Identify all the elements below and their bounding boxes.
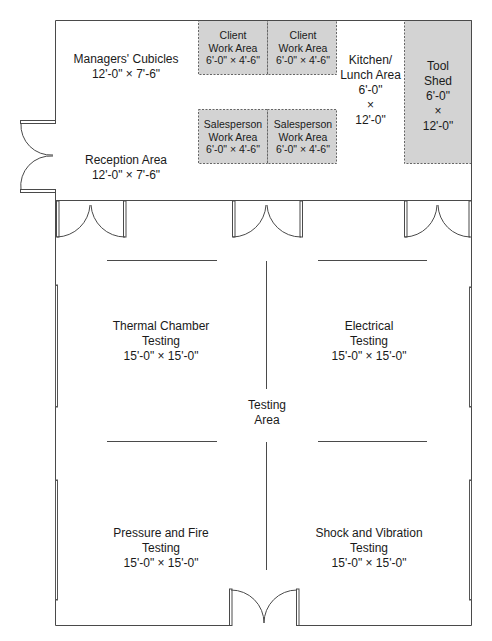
thermal-chamber-size: 15'-0" × 15'-0"	[100, 349, 222, 364]
shock-vibration-label: Shock and Vibration Testing 15'-0" × 15'…	[303, 526, 435, 571]
client-work-area-2-line1: Client	[268, 29, 338, 42]
electrical-size: 15'-0" × 15'-0"	[308, 349, 430, 364]
pressure-fire-size: 15'-0" × 15'-0"	[100, 556, 222, 571]
salesperson-work-area-2-line2: Work Area	[268, 131, 338, 144]
salesperson-work-area-2-size: 6'-0" × 4'-6"	[268, 143, 338, 156]
thermal-chamber-line1: Thermal Chamber	[100, 319, 222, 334]
thermal-chamber-label: Thermal Chamber Testing 15'-0" × 15'-0"	[100, 319, 222, 364]
client-work-area-2-line2: Work Area	[268, 42, 338, 55]
client-work-area-1-line1: Client	[198, 29, 268, 42]
door-electrical[interactable]	[405, 201, 472, 237]
salesperson-work-area-1-line2: Work Area	[198, 131, 268, 144]
kitchen-line1: Kitchen/	[337, 53, 404, 68]
kitchen-dim1: 6'-0"	[337, 83, 404, 98]
electrical-line1: Electrical	[308, 319, 430, 334]
managers-cubicles-label: Managers' Cubicles 12'-0" × 7'-6"	[66, 52, 186, 82]
managers-cubicles-size: 12'-0" × 7'-6"	[66, 67, 186, 82]
shock-vibration-line2: Testing	[303, 541, 435, 556]
pressure-fire-label: Pressure and Fire Testing 15'-0" × 15'-0…	[100, 526, 222, 571]
tool-shed-line1: Tool	[404, 59, 472, 74]
salesperson-work-area-2-line1: Salesperson	[268, 118, 338, 131]
testing-area-line1: Testing	[236, 398, 298, 413]
reception-area-name: Reception Area	[66, 153, 186, 168]
electrical-label: Electrical Testing 15'-0" × 15'-0"	[308, 319, 430, 364]
door-thermal-chamber[interactable]	[57, 201, 127, 237]
managers-cubicles-name: Managers' Cubicles	[66, 52, 186, 67]
tool-shed-line2: Shed	[404, 74, 472, 89]
testing-area-label: Testing Area	[236, 398, 298, 428]
thermal-chamber-line2: Testing	[100, 334, 222, 349]
kitchen-times: ×	[337, 98, 404, 113]
reception-area-size: 12'-0" × 7'-6"	[66, 168, 186, 183]
window-left-upper	[56, 285, 58, 407]
client-work-area-2-size: 6'-0" × 4'-6"	[268, 54, 338, 67]
salesperson-work-area-1-label: Salesperson Work Area 6'-0" × 4'-6"	[198, 118, 268, 156]
door-bottom-exit[interactable]	[230, 589, 300, 626]
shock-vibration-size: 15'-0" × 15'-0"	[303, 556, 435, 571]
client-work-area-1-size: 6'-0" × 4'-6"	[198, 54, 268, 67]
testing-area-line2: Area	[236, 413, 298, 428]
kitchen-line2: Lunch Area	[337, 68, 404, 83]
salesperson-work-area-1-line1: Salesperson	[198, 118, 268, 131]
tool-shed-times: ×	[404, 104, 472, 119]
electrical-line2: Testing	[308, 334, 430, 349]
salesperson-work-area-2-label: Salesperson Work Area 6'-0" × 4'-6"	[268, 118, 338, 156]
tool-shed-label: Tool Shed 6'-0" × 12'-0"	[404, 59, 472, 134]
window-left-lower	[56, 480, 58, 600]
kitchen-dim2: 12'-0"	[337, 113, 404, 128]
reception-area-label: Reception Area 12'-0" × 7'-6"	[66, 153, 186, 183]
tool-shed-dim1: 6'-0"	[404, 89, 472, 104]
salesperson-work-area-1-size: 6'-0" × 4'-6"	[198, 143, 268, 156]
client-work-area-2-label: Client Work Area 6'-0" × 4'-6"	[268, 29, 338, 67]
door-testing-area[interactable]	[233, 201, 303, 237]
client-work-area-1-line2: Work Area	[198, 42, 268, 55]
window-right-lower	[470, 480, 472, 600]
pressure-fire-line1: Pressure and Fire	[100, 526, 222, 541]
shock-vibration-line1: Shock and Vibration	[303, 526, 435, 541]
pressure-fire-line2: Testing	[100, 541, 222, 556]
tool-shed-dim2: 12'-0"	[404, 119, 472, 134]
kitchen-label: Kitchen/ Lunch Area 6'-0" × 12'-0"	[337, 53, 404, 128]
window-right-upper	[470, 287, 472, 407]
client-work-area-1-label: Client Work Area 6'-0" × 4'-6"	[198, 29, 268, 67]
entrance-door-left[interactable]	[21, 121, 56, 193]
